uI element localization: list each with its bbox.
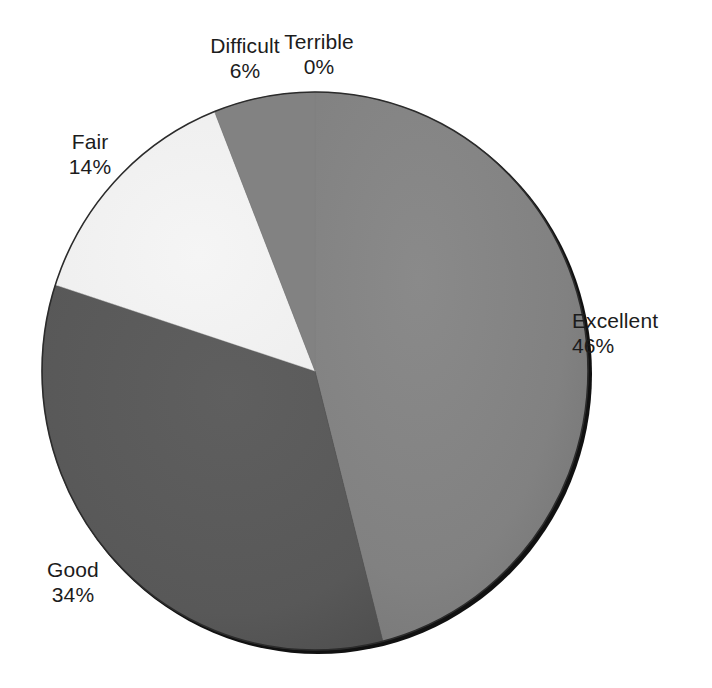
pie-label-excellent: Excellent 46% — [572, 308, 710, 358]
pie-label-excellent-name: Excellent — [572, 308, 710, 333]
pie-label-fair-name: Fair — [28, 129, 152, 154]
pie-label-excellent-value: 46% — [572, 333, 710, 358]
pie-label-fair: Fair 14% — [28, 129, 152, 179]
pie-label-terrible: Terrible 0% — [258, 29, 380, 79]
pie-chart: Difficult 6% Terrible 0% Fair 14% Excell… — [0, 0, 712, 688]
pie-label-good: Good 34% — [10, 557, 136, 607]
pie-label-fair-value: 14% — [28, 154, 152, 179]
pie-label-good-value: 34% — [10, 582, 136, 607]
pie-label-good-name: Good — [10, 557, 136, 582]
pie-label-terrible-name: Terrible — [258, 29, 380, 54]
pie-label-terrible-value: 0% — [258, 54, 380, 79]
